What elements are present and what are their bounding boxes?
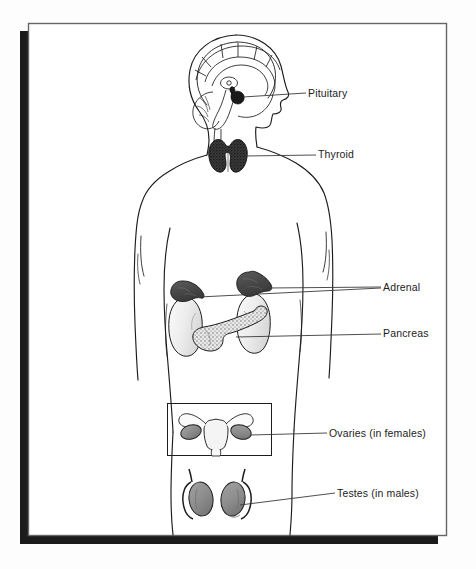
kidney-left — [169, 296, 202, 356]
label-ovaries: Ovaries (in females) — [329, 427, 426, 439]
label-pancreas: Pancreas — [383, 327, 429, 339]
label-thyroid: Thyroid — [318, 148, 354, 160]
label-adrenal: Adrenal — [383, 281, 420, 293]
label-testes: Testes (in males) — [337, 487, 419, 499]
diagram-canvas: Pituitary Thyroid Adrenal Pancreas Ovari… — [0, 0, 476, 569]
endocrine-diagram-figure: Pituitary Thyroid Adrenal Pancreas Ovari… — [0, 0, 476, 569]
label-pituitary: Pituitary — [308, 87, 348, 99]
